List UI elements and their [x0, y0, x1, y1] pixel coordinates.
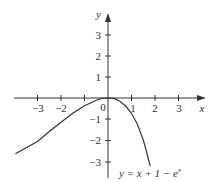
x-tick-label: −3	[32, 102, 44, 114]
y-tick-label: −1	[89, 113, 101, 125]
y-tick-label: 2	[96, 50, 102, 62]
origin-label: 0	[100, 101, 106, 113]
x-tick-label: 2	[152, 102, 158, 114]
y-tick-label: −2	[89, 134, 101, 146]
x-axis-arrow-icon	[197, 95, 206, 101]
x-tick-label: −2	[55, 102, 67, 114]
y-axis-label: y	[95, 8, 101, 20]
y-tick-label: 3	[96, 29, 102, 41]
x-tick-label: 3	[176, 102, 182, 114]
y-tick-label: −3	[89, 156, 101, 168]
function-plot: −3 −2 0 1 2 3 x 3 2 1 −1 −2 −3 y y = x +…	[0, 0, 217, 182]
equation-label: y = x + 1 − ex	[118, 166, 182, 179]
x-axis-label: x	[199, 102, 205, 114]
y-tick-label: 1	[96, 71, 102, 83]
y-axis-arrow-icon	[105, 13, 111, 22]
